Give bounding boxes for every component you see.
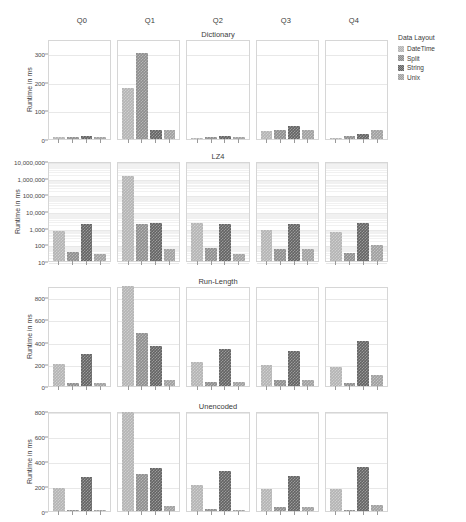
facet-row-title-unencoded: Unencoded xyxy=(48,402,388,411)
facet-row-lz4: LZ4Runtime in ms101001,00010,000100,0001… xyxy=(0,152,466,272)
bar-string[interactable] xyxy=(150,346,162,386)
x-tick-mark xyxy=(169,261,170,265)
legend-item-string[interactable]: String xyxy=(398,64,466,71)
y-axis-ticks: 0100200300 xyxy=(22,40,48,140)
bar-string[interactable] xyxy=(288,224,300,261)
x-tick-mark xyxy=(197,386,198,390)
bar-string[interactable] xyxy=(81,477,93,511)
bar-unix[interactable] xyxy=(233,254,245,261)
panel-dictionary-q1 xyxy=(117,40,180,140)
bar-string[interactable] xyxy=(150,468,162,512)
bar-string[interactable] xyxy=(219,224,231,261)
bar-group xyxy=(118,41,179,139)
x-tick-mark xyxy=(100,261,101,265)
bar-string[interactable] xyxy=(357,341,369,386)
bar-datetime[interactable] xyxy=(122,176,134,261)
bar-unix[interactable] xyxy=(302,130,314,139)
x-tick-mark xyxy=(238,139,239,143)
x-axis-ticks xyxy=(118,511,179,515)
facet-row-title-run-length: Run-Length xyxy=(48,277,388,286)
bar-split[interactable] xyxy=(344,253,356,261)
bar-string[interactable] xyxy=(357,467,369,511)
bar-string[interactable] xyxy=(357,223,369,261)
bar-split[interactable] xyxy=(274,130,286,139)
legend-item-datetime[interactable]: DateTime xyxy=(398,45,466,52)
bar-datetime[interactable] xyxy=(330,489,342,511)
bar-split[interactable] xyxy=(136,53,148,139)
legend-item-unix[interactable]: Unix xyxy=(398,74,466,81)
bar-datetime[interactable] xyxy=(191,362,203,386)
bar-datetime[interactable] xyxy=(122,412,134,511)
x-axis-ticks xyxy=(187,139,248,143)
bar-group xyxy=(187,288,248,386)
bar-unix[interactable] xyxy=(371,130,383,139)
x-tick-mark xyxy=(363,386,364,390)
bar-string[interactable] xyxy=(288,126,300,139)
bar-group xyxy=(257,41,318,139)
bar-datetime[interactable] xyxy=(261,131,273,139)
x-tick-mark xyxy=(307,386,308,390)
bar-unix[interactable] xyxy=(94,254,106,261)
bar-unix[interactable] xyxy=(164,249,176,261)
bar-unix[interactable] xyxy=(371,245,383,261)
x-tick-mark xyxy=(58,139,59,143)
bar-group xyxy=(187,41,248,139)
bar-string[interactable] xyxy=(219,471,231,511)
legend-item-split[interactable]: Split xyxy=(398,55,466,62)
bar-datetime[interactable] xyxy=(261,230,273,261)
panel-dictionary-q3 xyxy=(256,40,319,140)
bar-unix[interactable] xyxy=(371,375,383,386)
legend-label-split: Split xyxy=(407,55,420,62)
bar-split[interactable] xyxy=(205,248,217,261)
bar-unix[interactable] xyxy=(302,249,314,261)
bar-string[interactable] xyxy=(150,223,162,261)
y-tick-label: 10 xyxy=(38,259,45,266)
bar-datetime[interactable] xyxy=(330,367,342,386)
bar-datetime[interactable] xyxy=(261,489,273,511)
bar-string[interactable] xyxy=(150,130,162,139)
panel-run-length-q2 xyxy=(186,287,249,387)
bar-string[interactable] xyxy=(219,349,231,386)
x-tick-mark xyxy=(335,511,336,515)
panel-dictionary-q2 xyxy=(186,40,249,140)
legend-swatch-unix xyxy=(398,74,404,80)
bar-group xyxy=(49,288,110,386)
bar-datetime[interactable] xyxy=(330,232,342,261)
bar-datetime[interactable] xyxy=(122,286,134,386)
bar-split[interactable] xyxy=(136,224,148,261)
panel-dictionary-q0 xyxy=(48,40,111,140)
bar-split[interactable] xyxy=(274,249,286,261)
x-tick-mark xyxy=(141,511,142,515)
bar-datetime[interactable] xyxy=(122,88,134,139)
x-axis-ticks xyxy=(187,511,248,515)
y-tick-label: 1,000 xyxy=(30,225,45,232)
x-tick-mark xyxy=(100,511,101,515)
x-tick-mark xyxy=(363,139,364,143)
bar-split[interactable] xyxy=(67,252,79,261)
bar-unix[interactable] xyxy=(164,130,176,139)
x-tick-mark xyxy=(363,511,364,515)
x-tick-mark xyxy=(349,139,350,143)
bar-string[interactable] xyxy=(288,476,300,511)
legend: Data Layout DateTimeSplitStringUnix xyxy=(398,34,466,83)
bar-split[interactable] xyxy=(136,474,148,511)
bar-datetime[interactable] xyxy=(53,364,65,386)
y-tick-label: 100 xyxy=(35,242,45,249)
panel-dictionary-q4 xyxy=(325,40,388,140)
bar-datetime[interactable] xyxy=(53,488,65,511)
bar-datetime[interactable] xyxy=(191,485,203,511)
x-tick-mark xyxy=(266,511,267,515)
x-tick-mark xyxy=(100,386,101,390)
x-tick-mark xyxy=(128,386,129,390)
bar-datetime[interactable] xyxy=(53,231,65,261)
bar-datetime[interactable] xyxy=(191,223,203,261)
bar-string[interactable] xyxy=(81,354,93,386)
facet-row-run-length: Run-LengthRuntime in ms0200400600800 xyxy=(0,277,466,397)
bar-string[interactable] xyxy=(81,224,93,261)
x-axis-ticks xyxy=(187,386,248,390)
bar-string[interactable] xyxy=(288,351,300,386)
bar-datetime[interactable] xyxy=(261,365,273,386)
x-tick-mark xyxy=(335,386,336,390)
bar-group xyxy=(257,163,318,261)
bar-split[interactable] xyxy=(136,333,148,386)
